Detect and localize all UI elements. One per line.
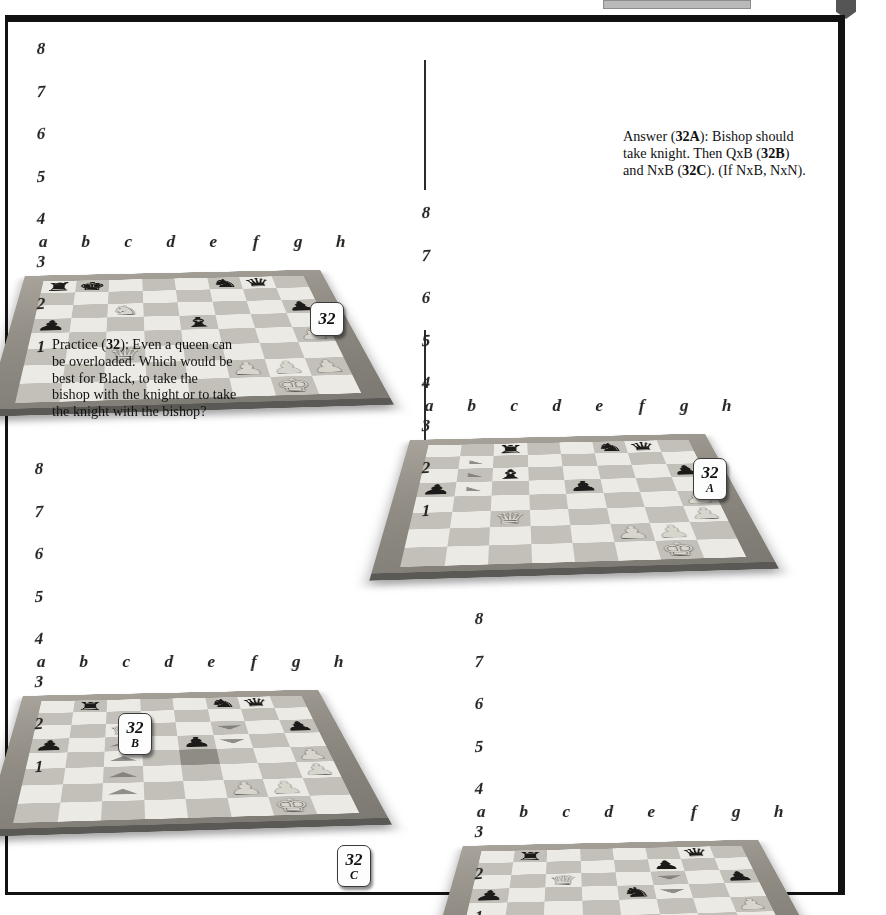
piece-white-pawn-h4[interactable]: ♟ [733,896,771,911]
square-b8[interactable]: ♜ [513,850,547,862]
piece-black-pawn-h6[interactable]: ♟ [282,719,317,732]
piece-black-knight-e5[interactable]: ♞ [620,885,653,899]
square-e5[interactable]: ♟ [564,479,603,494]
piece-white-pawn-h2[interactable]: ♟ [307,357,348,374]
square-e7[interactable] [176,289,212,302]
square-h4[interactable]: ♟ [730,896,774,912]
square-g7[interactable] [243,288,281,301]
square-b7[interactable] [73,292,109,305]
square-c5[interactable] [107,316,144,331]
square-g8[interactable]: ♛ [237,696,274,708]
square-f8[interactable] [645,847,681,859]
square-c1[interactable] [101,800,145,820]
square-f8[interactable]: ♞ [207,277,243,289]
piece-white-king-g1[interactable]: ♚ [271,796,313,815]
square-e8[interactable] [612,848,647,860]
piece-white-pawn-f2[interactable]: ♟ [226,779,264,796]
square-a1[interactable] [13,802,60,823]
square-d4[interactable] [582,900,621,915]
square-h8[interactable] [656,440,694,452]
square-h1[interactable] [309,794,359,814]
square-h4[interactable]: ♟ [290,746,334,762]
square-c8[interactable] [547,849,581,861]
square-d8[interactable] [580,848,614,860]
square-g1[interactable]: ♚ [268,795,317,815]
square-c6[interactable]: ♛ [545,873,581,887]
piece-white-pawn-h3[interactable]: ♟ [299,761,338,777]
square-e6[interactable] [178,302,215,316]
square-h1[interactable] [696,538,746,558]
square-g2[interactable]: ♟ [650,522,696,541]
square-d5[interactable] [528,480,566,495]
square-f5[interactable] [215,314,255,329]
square-f7[interactable]: ♟ [647,859,684,872]
square-b3[interactable] [62,767,103,785]
square-f2[interactable]: ♟ [610,523,655,542]
piece-black-rook-b8[interactable]: ♜ [515,850,544,862]
square-b8[interactable]: ♜ [73,700,107,712]
square-e6[interactable] [176,722,213,736]
square-h8[interactable] [271,276,309,288]
square-b4[interactable] [505,902,545,915]
square-c5[interactable] [492,480,529,495]
square-e7[interactable] [174,709,210,722]
square-b6[interactable] [69,724,106,738]
square-g5[interactable] [251,313,292,328]
square-d2[interactable] [530,525,572,544]
square-f5[interactable] [600,478,640,493]
square-b2[interactable] [60,783,103,802]
square-c5[interactable] [545,886,582,901]
piece-white-knight-c6[interactable]: ♞ [110,303,140,316]
piece-white-pawn-g2[interactable]: ♟ [266,778,306,795]
square-d7[interactable] [580,860,615,873]
square-c1[interactable] [488,544,532,564]
square-e4[interactable] [179,749,219,765]
square-b5[interactable] [454,481,492,496]
square-e5[interactable]: ♝ [179,315,218,330]
square-g4[interactable] [693,897,736,913]
square-h7[interactable] [274,707,313,720]
square-c7[interactable] [108,291,143,304]
square-c2[interactable] [102,782,144,801]
piece-white-pawn-g2[interactable]: ♟ [653,522,693,539]
square-f4[interactable] [603,492,645,508]
piece-black-knight-f8[interactable]: ♞ [209,277,240,288]
square-g6[interactable] [245,720,285,734]
square-e5[interactable]: ♞ [617,885,656,900]
piece-white-pawn-g2[interactable]: ♟ [268,358,308,375]
square-c8[interactable] [109,279,143,291]
board-32a[interactable]: ♜♞♛♝♟♟♟♟♛♟♟♟♚abcdefgh87654321 [405,222,797,614]
square-b6[interactable] [456,468,493,482]
square-b6[interactable] [71,304,108,318]
square-c6[interactable]: ♝ [492,467,528,481]
square-g4[interactable] [640,491,683,507]
square-g4[interactable] [255,327,298,343]
square-d5[interactable] [143,316,181,331]
square-e6[interactable] [563,466,600,480]
square-e8[interactable] [172,698,207,710]
piece-black-knight-f8[interactable]: ♞ [207,697,238,708]
square-e8[interactable] [559,442,594,454]
square-b5[interactable] [507,887,545,902]
piece-black-pawn-e5[interactable]: ♟ [567,479,600,493]
square-b5[interactable] [69,317,107,332]
square-c4[interactable] [544,901,583,915]
square-c8[interactable] [107,699,141,711]
square-h3[interactable] [736,911,782,915]
square-f7[interactable] [207,709,244,722]
square-h6[interactable]: ♟ [279,719,320,733]
square-d8[interactable] [142,278,176,290]
square-h5[interactable] [724,882,766,897]
square-b2[interactable] [447,527,490,546]
square-c4[interactable] [491,495,530,511]
square-d2[interactable] [143,781,185,800]
square-b7[interactable] [71,712,107,725]
square-h1[interactable] [311,374,361,394]
square-f6[interactable] [210,721,249,735]
square-e4[interactable] [566,493,606,509]
square-b8[interactable] [460,444,494,456]
piece-black-bishop-e5[interactable]: ♝ [182,315,215,329]
square-g8[interactable]: ♛ [624,440,661,452]
square-g6[interactable] [685,870,725,884]
square-e2[interactable] [570,524,614,543]
